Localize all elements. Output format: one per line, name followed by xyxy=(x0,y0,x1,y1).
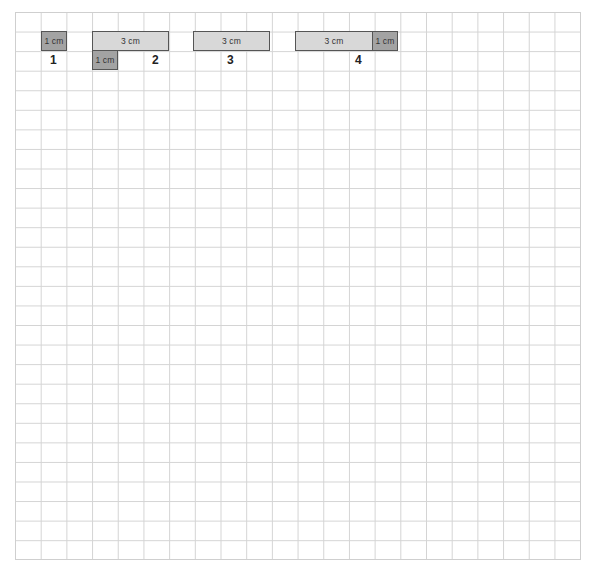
model-3-bar-3cm: 3 cm xyxy=(193,31,270,51)
model-2-bar-1cm: 1 cm xyxy=(92,50,118,70)
model-4-bar-3cm: 3 cm xyxy=(295,31,373,51)
model-1-label: 1 xyxy=(50,53,57,67)
model-1-bar-1cm: 1 cm xyxy=(41,31,67,51)
model-2-label: 2 xyxy=(152,53,159,67)
model-3-label: 3 xyxy=(227,53,234,67)
model-4-bar-1cm: 1 cm xyxy=(372,31,398,51)
graph-paper-grid xyxy=(15,12,581,560)
model-4-label: 4 xyxy=(355,53,362,67)
model-2-bar-3cm: 3 cm xyxy=(92,31,169,51)
